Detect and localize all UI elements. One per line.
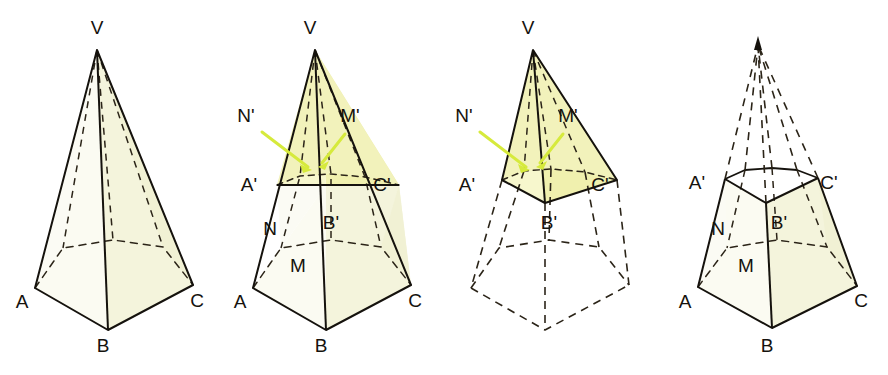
figure-4-frustum: A' C' B' N M A B C: [0, 0, 888, 375]
diagram-canvas: V A B C: [0, 0, 888, 375]
label-point-c-prime: C': [820, 172, 837, 193]
dashed-apex-edge-backleft: [745, 45, 758, 170]
label-vertex-a: A: [679, 291, 692, 312]
label-point-b-prime: B': [771, 212, 787, 233]
label-point-n: N: [711, 218, 725, 239]
dashed-apex-edge-cprime: [758, 45, 818, 178]
label-vertex-c: C: [854, 290, 868, 311]
label-vertex-b: B: [761, 335, 774, 356]
label-point-m: M: [738, 255, 754, 276]
dashed-apex-edge-backmid: [758, 45, 772, 168]
dashed-apex-edge-aprime: [725, 45, 758, 179]
dashed-apex-tip: [754, 36, 762, 50]
label-point-a-prime: A': [689, 172, 705, 193]
